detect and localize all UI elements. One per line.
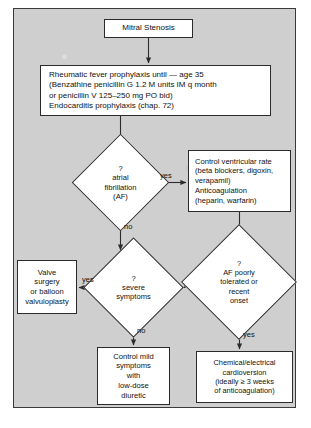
node-prophylaxis: Rheumatic fever prophylaxis until — age … [40, 65, 271, 116]
node-valve-surgery: Valve surgery or balloon valvuloplasty [17, 260, 77, 314]
node-rate-control-label: Control ventricular rate (beta blockers,… [195, 157, 273, 206]
node-prophylaxis-label: Rheumatic fever prophylaxis until — age … [49, 70, 217, 111]
node-rate-control: Control ventricular rate (beta blockers,… [188, 150, 291, 212]
node-valve-surgery-label: Valve surgery or balloon valvuloplasty [25, 268, 68, 307]
node-af-tolerated-label: ? AF poorly tolerated or recent onset [220, 259, 257, 304]
node-af-tolerated: ? AF poorly tolerated or recent onset [198, 241, 280, 323]
node-mitral-stenosis: Mitral Stenosis [104, 19, 193, 38]
node-mitral-stenosis-label: Mitral Stenosis [122, 23, 174, 33]
node-mild-symptoms: Control mild symptoms with low-dose diur… [97, 347, 170, 405]
node-severe-symptoms: ? severe symptoms [98, 252, 169, 323]
flowchart-figure: Mitral Stenosis Rheumatic fever prophyla… [0, 0, 311, 428]
edge-label-af-no: no [124, 223, 132, 231]
edge-label-af-yes: yes [160, 172, 172, 180]
node-mild-symptoms-label: Control mild symptoms with low-dose diur… [113, 352, 154, 401]
node-cardioversion-label: Chemical/electrical cardioversion (ideal… [213, 358, 275, 396]
edge-label-severe-no: no [137, 327, 145, 335]
edge-label-tolerated-yes: yes [243, 331, 255, 339]
node-cardioversion: Chemical/electrical cardioversion (ideal… [196, 351, 293, 403]
edge-label-severe-yes: yes [82, 276, 94, 284]
node-af-question: ? atrial fibrillation (AF) [86, 148, 155, 217]
node-af-question-label: ? atrial fibrillation (AF) [104, 164, 136, 201]
node-severe-symptoms-label: ? severe symptoms [116, 274, 151, 302]
